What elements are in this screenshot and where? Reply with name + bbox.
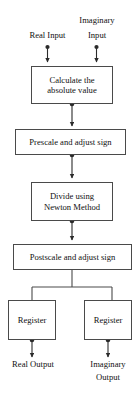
process-text-calculate-line2: absolute value — [45, 85, 98, 95]
output-label-real: Real Output — [0, 360, 66, 370]
process-text-postscale: Postscale and adjust sign — [28, 252, 118, 262]
connector-real-input-to-calculate — [45, 45, 49, 62]
output-label-imaginary-line2: Output — [78, 373, 138, 383]
process-text-divide-line1: Divide using — [42, 191, 102, 201]
connector-register-real-to-output — [30, 338, 35, 357]
process-box-calculate-absolute-value: Calculate the absolute value — [31, 66, 113, 104]
process-box-postscale-adjust-sign: Postscale and adjust sign — [13, 244, 132, 270]
output-label-imaginary-line1: Imaginary — [78, 360, 138, 370]
process-text-divide-line2: Newton Method — [42, 202, 102, 212]
register-label-imaginary: Register — [92, 315, 125, 325]
register-box-real: Register — [8, 300, 56, 340]
process-text-prescale: Prescale and adjust sign — [27, 137, 113, 147]
connector-imaginary-input-to-calculate — [94, 45, 98, 62]
connector-register-imaginary-to-output — [106, 338, 111, 357]
input-label-imaginary-line1: Imaginary — [66, 16, 128, 26]
input-label-imaginary-line2: Input — [66, 31, 128, 41]
process-box-divide-newton-method: Divide using Newton Method — [31, 182, 113, 221]
process-box-prescale-adjust-sign: Prescale and adjust sign — [15, 129, 126, 155]
process-text-calculate-line1: Calculate the — [45, 75, 98, 85]
connector-postscale-to-registers — [32, 270, 112, 300]
register-label-real: Register — [16, 315, 49, 325]
flowchart-diagram: Real Input Imaginary Input Calculate the… — [0, 0, 138, 398]
connector-prescale-to-divide — [70, 153, 75, 178]
register-box-imaginary: Register — [84, 300, 132, 340]
connector-calculate-to-prescale — [70, 102, 75, 126]
connector-divide-to-postscale — [70, 219, 75, 240]
